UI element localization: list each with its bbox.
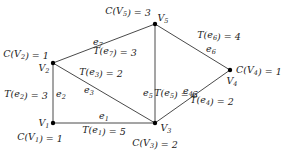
- edge-weight-e2: T(e2) = 3: [4, 88, 48, 101]
- edge-weight-e7: T(e7) = 3: [93, 45, 137, 58]
- node-label-V4: V4: [226, 75, 237, 88]
- node-V4: [228, 68, 232, 72]
- node-cost-V4: C(V4) = 1: [236, 64, 282, 77]
- edge-label-e6: e6: [206, 43, 216, 56]
- node-label-V2: V2: [38, 62, 49, 75]
- graph-diagram: e1T(e1) = 5e2T(e2) = 3e3T(e3) = 2e4T(e4)…: [0, 0, 286, 157]
- edge-e7: [53, 24, 155, 63]
- node-V2: [51, 61, 55, 65]
- node-cost-V1: C(V1) = 1: [17, 131, 63, 144]
- edge-weight-e1: T(e1) = 5: [82, 124, 126, 137]
- edge-weight-e5: T(e5) = 6: [154, 87, 198, 100]
- node-cost-V5: C(V5) = 3: [105, 5, 151, 18]
- edge-label-e1: e1: [99, 110, 109, 123]
- node-label-V3: V3: [160, 122, 171, 135]
- edge-label-e5: e5: [143, 87, 153, 100]
- node-V3: [153, 121, 157, 125]
- node-label-V5: V5: [157, 12, 168, 25]
- edge-weight-e6: T(e6) = 4: [197, 29, 241, 42]
- node-cost-V3: C(V3) = 2: [132, 137, 178, 150]
- edge-weight-e3: T(e3) = 2: [79, 66, 123, 79]
- node-V1: [51, 121, 55, 125]
- edge-label-e2: e2: [56, 88, 66, 101]
- node-label-V1: V1: [38, 117, 49, 130]
- node-cost-V2: C(V2) = 1: [3, 48, 49, 61]
